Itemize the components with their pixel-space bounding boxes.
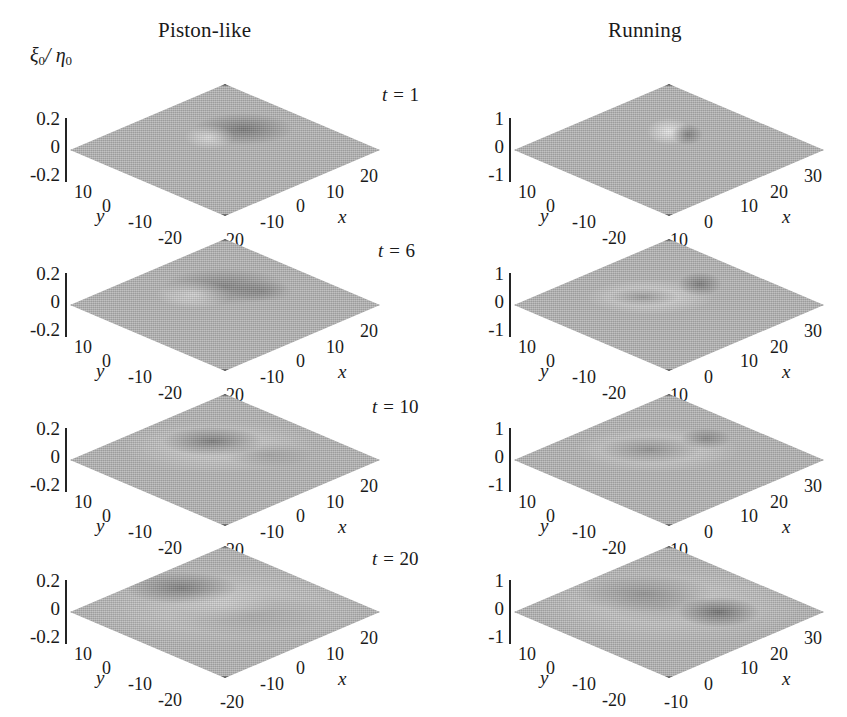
- x-tick-label: 0: [704, 212, 713, 233]
- x-axis-name: x: [782, 361, 790, 383]
- z-tick-label: 0: [8, 291, 60, 313]
- caption-remnant: [0, 706, 847, 717]
- z-axis-line: [65, 273, 67, 337]
- z-axis-line: [509, 580, 511, 644]
- z-tick-label: -0.2: [8, 626, 60, 648]
- z-axis-line: [65, 428, 67, 492]
- z-tick-label: 0.2: [8, 570, 60, 592]
- row-time-label-t6: t = 6: [378, 240, 415, 262]
- y-tick-label: -10: [128, 674, 152, 695]
- column-header-running: Running: [608, 18, 682, 43]
- z-axis-line: [65, 118, 67, 182]
- x-tick-label: 30: [804, 166, 822, 187]
- x-tick-label: -10: [260, 367, 284, 388]
- surface-panel-running-t1: 10-1100-10-20-100102030yx: [452, 78, 847, 238]
- y-axis-name: y: [96, 667, 104, 689]
- y-tick-label: 10: [518, 644, 536, 665]
- time-prefix: t =: [372, 548, 400, 569]
- row-time-label-t1: t = 1: [382, 84, 419, 106]
- y-tick-label: -10: [572, 212, 596, 233]
- x-tick-label: 10: [326, 182, 344, 203]
- x-axis-name: x: [782, 516, 790, 538]
- z-tick-label: 1: [452, 108, 504, 130]
- y-tick-label: 10: [74, 492, 92, 513]
- x-tick-label: 0: [704, 367, 713, 388]
- z-tick-label: 0: [452, 446, 504, 468]
- surface-panel-piston-t20: 0.20-0.2100-10-20-20-1001020yx: [8, 540, 408, 700]
- x-tick-label: 20: [360, 476, 378, 497]
- surface-panel-running-t20: 10-1100-10-20-100102030yx: [452, 540, 847, 700]
- x-tick-label: 20: [360, 628, 378, 649]
- time-value: 10: [400, 396, 419, 417]
- y-tick-label: -10: [128, 367, 152, 388]
- y-axis-name: y: [540, 515, 548, 537]
- z-tick-label: 0: [8, 598, 60, 620]
- x-tick-label: 30: [804, 476, 822, 497]
- z-tick-label: 0: [452, 291, 504, 313]
- y-tick-label: 10: [74, 644, 92, 665]
- x-tick-label: 10: [740, 506, 758, 527]
- y-tick-label: 10: [518, 492, 536, 513]
- x-axis-name: x: [338, 668, 346, 690]
- z-tick-label: 0.2: [8, 108, 60, 130]
- y-axis-name: y: [540, 667, 548, 689]
- x-tick-label: 30: [804, 628, 822, 649]
- x-tick-label: 20: [360, 321, 378, 342]
- z-tick-label: 0: [452, 136, 504, 158]
- x-tick-label: 10: [740, 196, 758, 217]
- y-tick-label: 10: [518, 337, 536, 358]
- x-tick-label: 0: [296, 658, 305, 679]
- time-value: 20: [400, 548, 419, 569]
- x-tick-label: 20: [360, 166, 378, 187]
- x-tick-label: -10: [260, 212, 284, 233]
- z-tick-label: 1: [452, 570, 504, 592]
- z-axis-title-eta-sub: 0: [66, 53, 73, 68]
- y-tick-label: 10: [74, 337, 92, 358]
- x-tick-label: 0: [296, 351, 305, 372]
- z-axis-title-slash: /: [45, 44, 56, 66]
- y-tick-label: -10: [572, 674, 596, 695]
- z-axis-title: ξ0/ η0: [30, 44, 72, 69]
- row-time-label-t10: t = 10: [372, 396, 419, 418]
- z-axis-title-eta: η: [56, 44, 66, 66]
- y-tick-label: 10: [74, 182, 92, 203]
- x-tick-label: 10: [740, 658, 758, 679]
- x-tick-label: 0: [704, 674, 713, 695]
- x-axis-name: x: [338, 361, 346, 383]
- x-tick-label: 0: [296, 196, 305, 217]
- surface-panel-running-t6: 10-1100-10-20-100102030yx: [452, 233, 847, 393]
- x-axis-name: x: [338, 206, 346, 228]
- time-prefix: t =: [372, 396, 400, 417]
- surface-panel-piston-t6: 0.20-0.2100-10-20-20-1001020yx: [8, 233, 408, 393]
- figure-root: Piston-like Running ξ0/ η0 0.20-0.2100-1…: [0, 0, 847, 717]
- z-tick-label: -1: [452, 474, 504, 496]
- time-value: 1: [410, 84, 420, 105]
- x-tick-label: 0: [296, 506, 305, 527]
- x-tick-label: 20: [770, 182, 788, 203]
- x-tick-label: 20: [770, 644, 788, 665]
- y-tick-label: 10: [518, 182, 536, 203]
- column-header-piston-like: Piston-like: [158, 18, 251, 43]
- z-axis-line: [509, 273, 511, 337]
- z-tick-label: 0: [8, 446, 60, 468]
- y-axis-name: y: [540, 360, 548, 382]
- x-axis-name: x: [338, 516, 346, 538]
- x-tick-label: 20: [770, 492, 788, 513]
- x-tick-label: 10: [326, 492, 344, 513]
- z-axis-line: [509, 118, 511, 182]
- z-tick-label: -1: [452, 319, 504, 341]
- y-tick-label: -10: [572, 367, 596, 388]
- x-tick-label: 10: [740, 351, 758, 372]
- y-tick-label: -10: [128, 212, 152, 233]
- x-tick-label: 10: [326, 644, 344, 665]
- y-axis-name: y: [540, 205, 548, 227]
- time-value: 6: [406, 240, 416, 261]
- surface-panel-running-t10: 10-1100-10-20-100102030yx: [452, 388, 847, 548]
- x-axis-name: x: [782, 668, 790, 690]
- z-axis-title-xi: ξ: [30, 44, 39, 66]
- x-axis-name: x: [782, 206, 790, 228]
- z-axis-line: [509, 428, 511, 492]
- row-time-label-t20: t = 20: [372, 548, 419, 570]
- surface-panel-piston-t10: 0.20-0.2100-10-20-20-1001020yx: [8, 388, 408, 548]
- z-tick-label: -0.2: [8, 474, 60, 496]
